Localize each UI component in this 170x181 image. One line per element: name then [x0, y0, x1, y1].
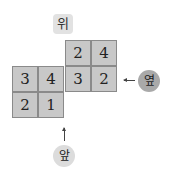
grid-cell: 4	[91, 40, 117, 66]
grid-cell: 2	[12, 92, 38, 118]
side-arrow-icon	[124, 80, 135, 81]
grid-cell: 2	[91, 66, 117, 92]
grid-cell: 2	[65, 40, 91, 66]
grid-cell: 3	[65, 66, 91, 92]
grid-cell: 3	[12, 66, 38, 92]
side-view-label: 옆	[138, 70, 160, 92]
grid-cell: 4	[38, 66, 64, 92]
front-view-label: 앞	[53, 145, 75, 167]
front-arrow-icon	[64, 128, 65, 141]
top-view-label: 위	[53, 14, 73, 34]
grid-cell: 1	[38, 92, 64, 118]
